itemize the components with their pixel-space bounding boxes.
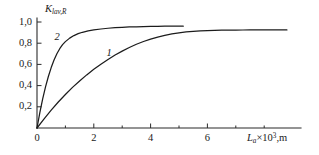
x-tick-label-2: 4: [137, 133, 165, 144]
x-axis-unit: ,m: [276, 132, 287, 143]
x-axis-factor: ×10: [256, 132, 272, 143]
chart-figure: 0,20,40,60,81,0 0246 12 Klav,R La×103,m: [0, 0, 319, 155]
y-tick-label-0: 0,2: [0, 101, 32, 112]
y-tick-label-2: 0,6: [0, 59, 32, 70]
x-axis-title: La×103,m: [247, 133, 287, 145]
curve-1: [37, 30, 287, 128]
y-axis-subscript: lav,R: [52, 8, 66, 16]
x-tick-label-1: 2: [80, 133, 108, 144]
x-tick-label-3: 6: [193, 133, 221, 144]
y-tick-label-3: 0,8: [0, 38, 32, 49]
x-axis-major-ticks: [94, 124, 208, 129]
y-axis-title: Klav,R: [45, 4, 66, 16]
curve-label-1: 1: [106, 48, 111, 59]
curve-label-2: 2: [54, 32, 59, 43]
y-axis-symbol: K: [45, 3, 52, 14]
y-tick-label-1: 0,4: [0, 80, 32, 91]
x-tick-label-0: 0: [23, 133, 51, 144]
data-curves: [37, 26, 287, 128]
y-axis-ticks: [37, 22, 42, 107]
y-tick-label-4: 1,0: [0, 17, 32, 28]
